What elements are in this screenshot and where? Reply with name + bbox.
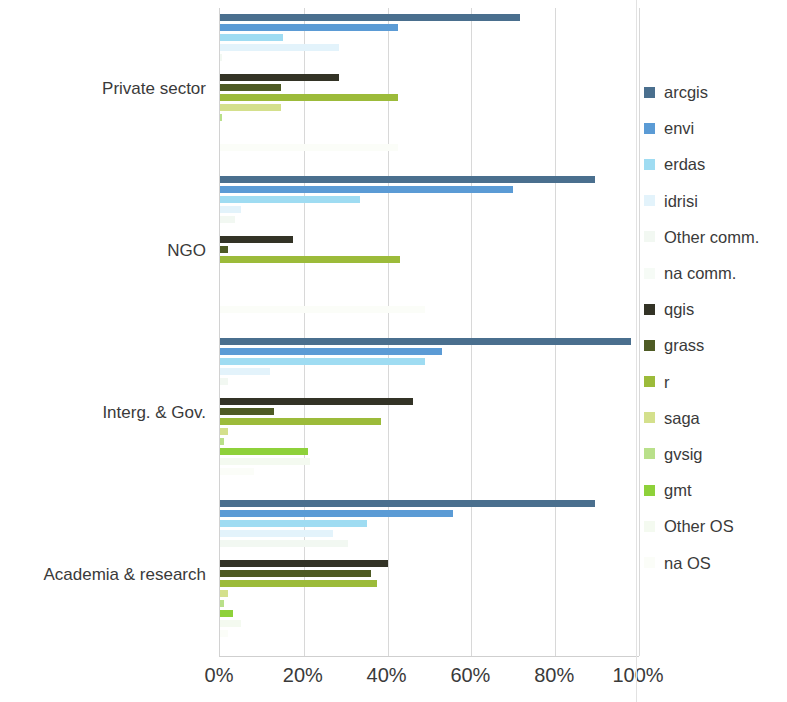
legend-label: grass bbox=[664, 336, 704, 354]
bar-idrisi bbox=[220, 368, 270, 376]
bar-row bbox=[220, 388, 639, 396]
bar-row bbox=[220, 114, 639, 122]
legend-item-other-comm[interactable]: Other comm. bbox=[636, 219, 787, 255]
legend-swatch-icon bbox=[644, 195, 655, 206]
legend-label: na OS bbox=[664, 554, 711, 572]
bar-row bbox=[220, 94, 639, 102]
bar-row bbox=[220, 286, 639, 294]
bar-row bbox=[220, 296, 639, 304]
legend-swatch-icon bbox=[644, 521, 655, 532]
bar-qgis bbox=[220, 236, 293, 244]
bar-gvsig bbox=[220, 114, 222, 122]
bar-chart: Private sectorNGOInterg. & Gov.Academia … bbox=[0, 0, 787, 702]
chart-legend: arcgisenvierdasidrisiOther comm.na comm.… bbox=[636, 74, 787, 581]
bar-idrisi bbox=[220, 206, 241, 214]
legend-item-saga[interactable]: saga bbox=[636, 400, 787, 436]
bar-gvsig bbox=[220, 600, 224, 608]
legend-item-erdas[interactable]: erdas bbox=[636, 146, 787, 182]
legend-label: idrisi bbox=[664, 192, 698, 210]
legend-label: gmt bbox=[664, 481, 692, 499]
x-axis-tick-labels: 0%20%40%60%80%100% bbox=[0, 662, 787, 694]
y-axis-label-academia-research: Academia & research bbox=[43, 565, 206, 584]
bar-saga bbox=[220, 428, 228, 436]
bar-row bbox=[220, 84, 639, 92]
legend-item-na-os[interactable]: na OS bbox=[636, 544, 787, 580]
bar-row bbox=[220, 600, 639, 608]
bar-row bbox=[220, 458, 639, 466]
bar-other-comm bbox=[220, 378, 228, 386]
bar-row bbox=[220, 500, 639, 508]
bar-row bbox=[220, 438, 639, 446]
legend-label: arcgis bbox=[664, 83, 708, 101]
legend-item-idrisi[interactable]: idrisi bbox=[636, 183, 787, 219]
bar-row bbox=[220, 418, 639, 426]
bar-arcgis bbox=[220, 500, 595, 508]
bar-r bbox=[220, 256, 400, 264]
bar-arcgis bbox=[220, 176, 595, 184]
legend-item-arcgis[interactable]: arcgis bbox=[636, 74, 787, 110]
bar-row bbox=[220, 408, 639, 416]
x-tick-80: 80% bbox=[534, 662, 574, 688]
y-axis-label-ngo: NGO bbox=[167, 241, 206, 260]
bar-group bbox=[220, 332, 639, 494]
bar-erdas bbox=[220, 196, 360, 204]
bar-erdas bbox=[220, 34, 283, 42]
legend-item-envi[interactable]: envi bbox=[636, 110, 787, 146]
bar-row bbox=[220, 428, 639, 436]
bar-row bbox=[220, 378, 639, 386]
legend-label: r bbox=[664, 373, 670, 391]
bar-row bbox=[220, 560, 639, 568]
bar-row bbox=[220, 630, 639, 638]
legend-item-other-os[interactable]: Other OS bbox=[636, 508, 787, 544]
y-axis-category-labels: Private sectorNGOInterg. & Gov.Academia … bbox=[0, 8, 212, 656]
bar-row bbox=[220, 530, 639, 538]
bar-row bbox=[220, 54, 639, 62]
bar-row bbox=[220, 24, 639, 32]
bar-other-os bbox=[220, 620, 241, 628]
bar-row bbox=[220, 124, 639, 132]
bar-qgis bbox=[220, 560, 388, 568]
bar-other-os bbox=[220, 458, 310, 466]
bar-row bbox=[220, 196, 639, 204]
bar-erdas bbox=[220, 358, 425, 366]
bar-row bbox=[220, 206, 639, 214]
bar-row bbox=[220, 216, 639, 224]
legend-label: saga bbox=[664, 409, 700, 427]
bar-row bbox=[220, 236, 639, 244]
bar-row bbox=[220, 580, 639, 588]
plot-area bbox=[219, 8, 639, 657]
legend-item-grass[interactable]: grass bbox=[636, 327, 787, 363]
bar-na-os bbox=[220, 468, 254, 476]
legend-swatch-icon bbox=[644, 485, 655, 496]
bar-other-comm bbox=[220, 216, 235, 224]
bar-row bbox=[220, 186, 639, 194]
bar-envi bbox=[220, 348, 442, 356]
legend-swatch-icon bbox=[644, 304, 655, 315]
bar-group bbox=[220, 8, 639, 170]
bar-row bbox=[220, 550, 639, 558]
bar-gvsig bbox=[220, 438, 224, 446]
legend-swatch-icon bbox=[644, 340, 655, 351]
bar-row bbox=[220, 590, 639, 598]
legend-label: erdas bbox=[664, 155, 705, 173]
legend-label: qgis bbox=[664, 300, 694, 318]
legend-item-qgis[interactable]: qgis bbox=[636, 291, 787, 327]
legend-label: na comm. bbox=[664, 264, 736, 282]
legend-item-gvsig[interactable]: gvsig bbox=[636, 436, 787, 472]
bar-r bbox=[220, 418, 381, 426]
bar-grass bbox=[220, 84, 281, 92]
bar-row bbox=[220, 176, 639, 184]
bar-row bbox=[220, 358, 639, 366]
y-axis-label-private-sector: Private sector bbox=[102, 79, 206, 98]
legend-item-na-comm[interactable]: na comm. bbox=[636, 255, 787, 291]
bar-row bbox=[220, 338, 639, 346]
legend-label: envi bbox=[664, 119, 694, 137]
legend-item-r[interactable]: r bbox=[636, 364, 787, 400]
x-tick-20: 20% bbox=[283, 662, 323, 688]
bar-row bbox=[220, 134, 639, 142]
bar-arcgis bbox=[220, 14, 520, 22]
bar-row bbox=[220, 266, 639, 274]
legend-item-gmt[interactable]: gmt bbox=[636, 472, 787, 508]
bar-qgis bbox=[220, 398, 413, 406]
bar-saga bbox=[220, 104, 281, 112]
